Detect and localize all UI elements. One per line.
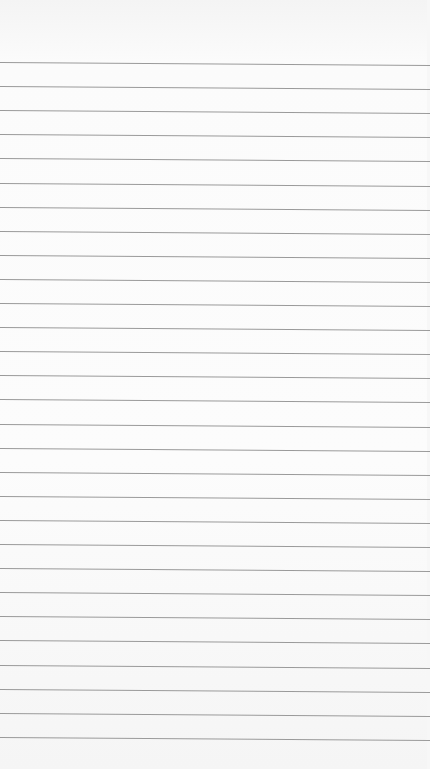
ruled-line — [0, 424, 430, 428]
ruled-line — [0, 399, 430, 403]
ruled-line — [0, 134, 430, 138]
ruled-line — [0, 689, 430, 693]
ruled-line — [0, 86, 430, 90]
ruled-line — [0, 158, 430, 162]
ruled-line — [0, 207, 430, 211]
ruled-line — [0, 279, 430, 283]
ruled-line — [0, 713, 430, 717]
ruled-line — [0, 544, 430, 548]
ruled-line — [0, 351, 430, 355]
ruled-line — [0, 327, 430, 331]
ruled-line — [0, 448, 430, 452]
ruled-line — [0, 520, 430, 524]
ruled-line — [0, 737, 430, 741]
ruled-line — [0, 568, 430, 572]
ruled-line — [0, 231, 430, 235]
ruled-line — [0, 303, 430, 307]
ruled-line — [0, 110, 430, 114]
ruled-line — [0, 616, 430, 620]
ruled-line — [0, 496, 430, 500]
ruled-line — [0, 472, 430, 476]
ruled-line — [0, 665, 430, 669]
ruled-line — [0, 62, 430, 66]
ruled-line — [0, 255, 430, 259]
ruled-line — [0, 592, 430, 596]
ruled-line — [0, 640, 430, 644]
ruled-line — [0, 375, 430, 379]
ruled-line — [0, 183, 430, 187]
